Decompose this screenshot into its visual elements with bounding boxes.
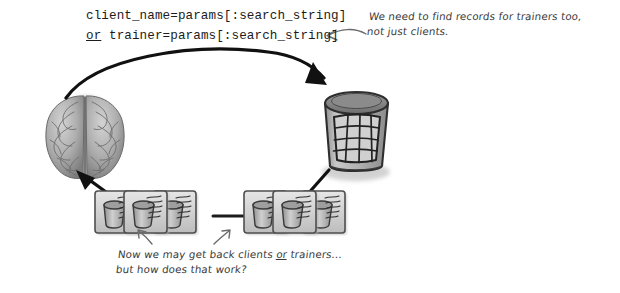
code-or-keyword: or [86,29,101,43]
record-card-row [95,191,347,235]
brain-illustration [46,96,124,181]
diagram-canvas: client_name=params[:search_string] or tr… [0,0,620,293]
annotation-top: We need to find records for trainers too… [366,9,618,38]
record-card-group [244,191,347,235]
record-card-group [95,191,198,235]
code-line-2: or trainer=params[:search_string] [86,26,336,46]
arrow-brain-to-database [66,49,327,98]
annotation-bottom-part1: Now we may get back clients [117,248,277,260]
database-cylinder-illustration [322,92,390,181]
record-card [124,191,169,235]
code-snippet: client_name=params[:search_string] or tr… [86,6,336,46]
code-line-2-rest: trainer=params[:search_string] [101,29,338,43]
callout-leader-bottom-right [214,230,230,244]
annotation-bottom: Now we may get back clients or trainers.… [115,247,419,276]
code-line-1: client_name=params[:search_string] [86,6,336,26]
record-card [273,191,318,235]
